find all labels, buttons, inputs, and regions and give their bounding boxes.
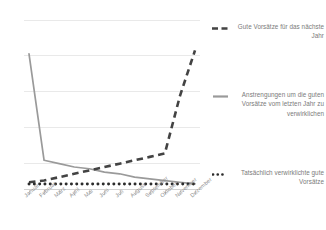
legend-entry-gute-vorsaetze[interactable]: Gute Vorsätze für das nächste Jahr [212,22,324,41]
legend-label: Anstrengungen um die guten Vorsätze vom … [231,90,324,118]
dotted-line-marker-icon [212,170,228,179]
solid-line-marker-icon [212,92,228,101]
legend-label: Gute Vorsätze für das nächste Jahr [231,22,324,41]
chart-legend: Gute Vorsätze für das nächste Jahr Anstr… [208,0,326,230]
plot-column: JanuarFebruarMärzAprilMaiJuniJuliAugustS… [0,0,208,230]
line-chart: JanuarFebruarMärzAprilMaiJuniJuliAugustS… [0,0,326,230]
plot-area [24,18,200,190]
dashed-line-marker-icon [212,24,228,33]
legend-entry-tatsaechlich[interactable]: Tatsächlich verwirklichte gute Vorsätze [212,168,324,187]
legend-entry-anstrengungen[interactable]: Anstrengungen um die guten Vorsätze vom … [212,90,324,118]
series-layer [24,18,200,190]
x-axis-labels: JanuarFebruarMärzAprilMaiJuniJuliAugustS… [24,194,200,230]
legend-label: Tatsächlich verwirklichte gute Vorsätze [231,168,324,187]
series-line-anstrengungen [29,54,195,184]
